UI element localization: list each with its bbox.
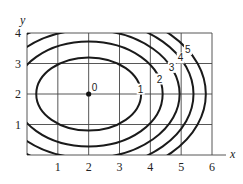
x-tick-label: 6 xyxy=(209,160,215,174)
x-tick-label: 5 xyxy=(178,160,184,174)
contour-label-4: 4 xyxy=(178,52,184,63)
x-tick-label: 2 xyxy=(86,160,92,174)
contour-label-5: 5 xyxy=(185,44,191,55)
contour-label-3: 3 xyxy=(169,62,175,73)
grid xyxy=(27,33,226,155)
y-tick-label: 4 xyxy=(15,26,21,40)
contour-label-1: 1 xyxy=(138,84,144,95)
center-level-label: 0 xyxy=(92,82,98,93)
x-tick-label: 3 xyxy=(117,160,123,174)
y-tick-label: 1 xyxy=(15,118,21,132)
contour-plot: 1234561234xy012345 xyxy=(0,0,243,184)
x-tick-label: 1 xyxy=(55,160,61,174)
y-tick-label: 3 xyxy=(15,57,21,71)
x-tick-label: 4 xyxy=(147,160,153,174)
x-axis-label: x xyxy=(229,147,236,161)
y-tick-label: 2 xyxy=(15,87,21,101)
center-point xyxy=(86,91,91,96)
contour-label-2: 2 xyxy=(157,74,163,85)
y-axis-label: y xyxy=(19,13,26,27)
